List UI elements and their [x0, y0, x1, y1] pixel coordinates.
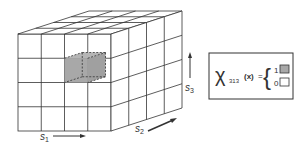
indicator-function-legend: χ 313 (x) = { 1 0 — [209, 53, 293, 99]
chi-subscript: 313 — [229, 78, 240, 84]
value-one-label: 1 — [274, 66, 279, 75]
axis-s3: s3 — [185, 52, 194, 94]
axis-s1-label: s1 — [40, 131, 49, 143]
axis-s3-label: s3 — [185, 82, 194, 94]
axis-s1: s1 — [40, 131, 86, 143]
highlighted-voxel-313 — [65, 53, 106, 83]
filled-swatch — [280, 65, 289, 73]
value-zero-label: 0 — [274, 79, 279, 88]
arrow-s2-icon — [148, 120, 173, 131]
empty-swatch — [280, 78, 289, 86]
chi-argument: (x) — [244, 72, 254, 81]
cube-diagram: s1 s2 s3 χ 313 (x) = { 1 0 — [0, 0, 306, 149]
voxel-cube — [18, 11, 182, 131]
axis-s2-label: s2 — [135, 123, 144, 135]
curly-brace: { — [263, 63, 271, 90]
chi-symbol: χ — [215, 64, 226, 86]
